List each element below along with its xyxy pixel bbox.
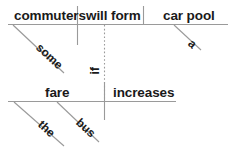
word-fare: fare	[45, 86, 69, 100]
word-car-pool: car pool	[163, 9, 215, 23]
word-if: if	[89, 67, 102, 74]
word-commuters: commuters	[14, 9, 86, 23]
word-will-form: will form	[86, 9, 141, 23]
sentence-diagram: commuters will form car pool some a if f…	[0, 0, 233, 148]
word-increases: increases	[113, 86, 174, 100]
